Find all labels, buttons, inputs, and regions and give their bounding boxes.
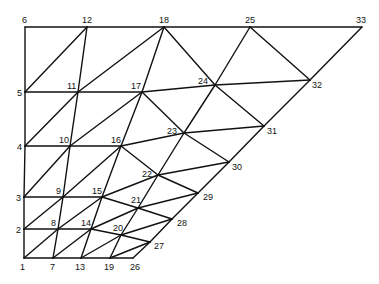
mesh-edge-10-11 xyxy=(70,92,78,146)
mesh-edges xyxy=(24,27,362,258)
node-label-25: 25 xyxy=(245,15,255,25)
node-label-18: 18 xyxy=(159,15,169,25)
mesh-edge-2-9 xyxy=(24,197,63,229)
mesh-edge-17-23 xyxy=(142,92,184,133)
finite-element-mesh: 1234567891011121314151617181920212223242… xyxy=(0,0,379,284)
mesh-edge-23-30 xyxy=(184,133,229,162)
mesh-edge-1-8 xyxy=(24,229,58,258)
mesh-edge-22-23 xyxy=(158,133,184,175)
node-label-27: 27 xyxy=(154,241,164,251)
node-label-13: 13 xyxy=(75,262,85,272)
node-label-4: 4 xyxy=(17,142,22,152)
node-label-1: 1 xyxy=(20,262,25,272)
mesh-edge-22-29 xyxy=(158,175,198,193)
node-label-21: 21 xyxy=(131,195,141,205)
node-label-33: 33 xyxy=(356,15,366,25)
mesh-edge-3-10 xyxy=(24,146,70,197)
mesh-edge-21-28 xyxy=(138,208,172,219)
mesh-edge-17-24 xyxy=(142,85,215,92)
mesh-edge-20-27 xyxy=(121,235,150,242)
mesh-edge-17-18 xyxy=(142,27,164,92)
mesh-edge-24-25 xyxy=(215,27,250,85)
node-label-16: 16 xyxy=(111,135,121,145)
node-label-7: 7 xyxy=(50,262,55,272)
mesh-edge-23-31 xyxy=(184,126,264,133)
node-label-5: 5 xyxy=(17,88,22,98)
node-label-15: 15 xyxy=(92,186,102,196)
node-label-11: 11 xyxy=(67,81,76,91)
mesh-edge-27-26 xyxy=(133,242,150,258)
node-labels: 1234567891011121314151617181920212223242… xyxy=(16,15,366,272)
node-label-19: 19 xyxy=(104,262,114,272)
mesh-edge-9-10 xyxy=(63,146,70,197)
node-label-9: 9 xyxy=(56,186,61,196)
mesh-edge-21-29 xyxy=(138,193,198,208)
mesh-edge-24-32 xyxy=(215,80,310,85)
node-label-30: 30 xyxy=(232,162,242,172)
node-label-10: 10 xyxy=(59,135,69,145)
node-label-31: 31 xyxy=(267,126,277,136)
mesh-edge-23-24 xyxy=(184,85,215,133)
node-label-26: 26 xyxy=(130,262,140,272)
mesh-edge-3-4 xyxy=(24,146,25,197)
mesh-edge-8-15 xyxy=(58,197,102,229)
mesh-edge-25-32 xyxy=(250,27,310,80)
node-label-23: 23 xyxy=(167,126,177,136)
mesh-edge-5-12 xyxy=(25,27,87,92)
node-label-3: 3 xyxy=(16,193,21,203)
mesh-edge-11-12 xyxy=(78,27,87,92)
node-label-12: 12 xyxy=(82,15,92,25)
node-label-28: 28 xyxy=(177,218,187,228)
mesh-edge-24-31 xyxy=(215,85,264,126)
node-label-20: 20 xyxy=(113,223,123,233)
mesh-edge-31-30 xyxy=(229,126,264,162)
node-label-22: 22 xyxy=(142,169,152,179)
node-label-6: 6 xyxy=(22,15,27,25)
node-label-2: 2 xyxy=(16,225,21,235)
node-label-24: 24 xyxy=(198,76,208,86)
mesh-edge-4-11 xyxy=(25,92,78,146)
mesh-edge-11-18 xyxy=(78,27,164,92)
node-label-29: 29 xyxy=(203,192,213,202)
mesh-edge-16-22 xyxy=(121,146,158,175)
mesh-edge-33-32 xyxy=(310,27,362,80)
node-label-14: 14 xyxy=(81,218,91,228)
mesh-edge-8-9 xyxy=(58,197,63,229)
node-label-17: 17 xyxy=(131,81,141,91)
mesh-edge-32-31 xyxy=(264,80,310,126)
node-label-8: 8 xyxy=(51,218,56,228)
node-label-32: 32 xyxy=(312,80,322,90)
